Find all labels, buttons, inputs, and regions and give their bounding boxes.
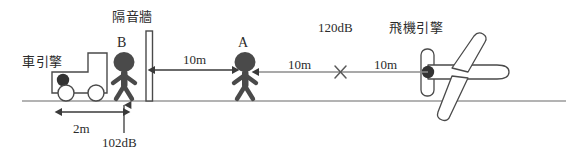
truck-icon [52,53,107,101]
sound-source-dot-icon [57,74,69,86]
truck-wheel-front-icon [88,85,104,101]
truck-wheel-rear-icon [58,85,74,101]
wall-icon [146,31,153,101]
person-figure-icon-b [113,52,135,99]
airplane-icon [421,33,509,121]
diagram-graphics [0,0,582,153]
acoustics-diagram: 車引擎 隔音牆 B A 120dB 飛機引擎 10m 10m 10m 2m 10… [0,0,582,153]
person-figure-icon-a [234,52,256,99]
